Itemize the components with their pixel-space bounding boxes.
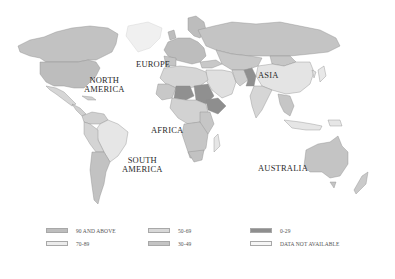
legend-label: DATA NOT AVAILABLE — [280, 241, 339, 247]
south-africa — [188, 150, 204, 162]
legend-item-50-69: 50-69 — [148, 226, 191, 235]
sahel-west — [156, 84, 176, 100]
caribbean — [82, 96, 96, 100]
legend-label: 0-29 — [280, 228, 290, 234]
argentina-chile — [90, 152, 110, 204]
india — [250, 86, 272, 118]
legend-swatch — [250, 241, 272, 246]
legend-item-0-29: 0-29 — [250, 226, 290, 235]
japan — [318, 66, 326, 82]
central-america — [72, 104, 86, 116]
legend-swatch — [46, 228, 68, 233]
uk — [168, 30, 176, 40]
label-line: AMERICA — [122, 165, 163, 174]
greenland — [126, 22, 162, 52]
legend-item-data-not-available: DATA NOT AVAILABLE — [250, 239, 339, 248]
legend-item-90-above: 90 AND ABOVE — [46, 226, 116, 235]
ethiopia — [206, 98, 226, 114]
madagascar — [214, 134, 220, 152]
legend-label: 50-69 — [178, 228, 191, 234]
mexico — [46, 86, 76, 106]
label-line: AMERICA — [84, 85, 125, 94]
tasmania — [330, 182, 336, 188]
mali-niger — [174, 86, 194, 100]
world-map — [0, 0, 395, 220]
legend-label: 30-49 — [178, 241, 191, 247]
legend-swatch — [148, 241, 170, 246]
indonesia — [284, 120, 322, 130]
label-north-america: NORTH AMERICA — [84, 76, 125, 94]
new-zealand — [354, 172, 368, 194]
legend-item-30-49: 30-49 — [148, 239, 191, 248]
label-south-america: SOUTH AMERICA — [122, 156, 163, 174]
map-legend: 90 AND ABOVE 70-89 50-69 30-49 0-29 DATA… — [0, 222, 395, 252]
legend-label: 70-89 — [76, 241, 89, 247]
label-australia: AUSTRALIA — [258, 164, 308, 173]
legend-label: 90 AND ABOVE — [76, 228, 116, 234]
southeast-asia — [278, 94, 294, 116]
legend-swatch — [148, 228, 170, 233]
legend-item-70-89: 70-89 — [46, 239, 89, 248]
label-africa: AFRICA — [151, 126, 183, 135]
canada — [18, 26, 118, 62]
legend-swatch — [46, 241, 68, 246]
label-europe: EUROPE — [136, 60, 170, 69]
papua — [328, 120, 342, 126]
turkey — [200, 60, 222, 68]
label-asia: ASIA — [258, 71, 279, 80]
legend-swatch — [250, 228, 272, 233]
australia — [304, 136, 348, 178]
